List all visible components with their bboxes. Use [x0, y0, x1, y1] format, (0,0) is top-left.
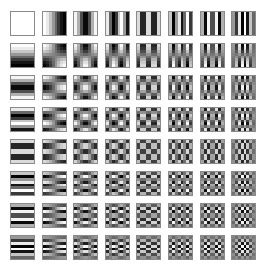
basis-tile-7-4	[136, 235, 161, 260]
basis-tile-0-7	[231, 11, 256, 36]
basis-tile-5-7	[231, 171, 256, 196]
basis-tile-0-2	[73, 11, 98, 36]
basis-tile-7-6	[200, 235, 225, 260]
basis-tile-5-6	[200, 171, 225, 196]
basis-tile-6-1	[42, 203, 67, 228]
basis-tile-3-1	[42, 107, 67, 132]
basis-tile-2-6	[200, 75, 225, 100]
basis-tile-3-4	[136, 107, 161, 132]
basis-tile-6-2	[73, 203, 98, 228]
basis-tile-5-0	[10, 171, 35, 196]
basis-tile-2-7	[231, 75, 256, 100]
basis-tile-1-7	[231, 43, 256, 68]
basis-tile-6-6	[200, 203, 225, 228]
basis-tile-1-1	[42, 43, 67, 68]
basis-tile-0-1	[42, 11, 67, 36]
basis-tile-2-1	[42, 75, 67, 100]
basis-tile-4-6	[200, 139, 225, 164]
basis-tile-4-4	[136, 139, 161, 164]
basis-tile-6-3	[105, 203, 130, 228]
basis-tile-4-1	[42, 139, 67, 164]
basis-tile-6-0	[10, 203, 35, 228]
basis-tile-1-2	[73, 43, 98, 68]
basis-tile-4-3	[105, 139, 130, 164]
basis-tile-6-5	[168, 203, 193, 228]
basis-tile-1-3	[105, 43, 130, 68]
basis-tile-6-4	[136, 203, 161, 228]
basis-tile-7-7	[231, 235, 256, 260]
basis-tile-7-3	[105, 235, 130, 260]
basis-tile-0-3	[105, 11, 130, 36]
basis-tile-1-4	[136, 43, 161, 68]
basis-tile-7-0	[10, 235, 35, 260]
basis-tile-5-1	[42, 171, 67, 196]
basis-tile-1-6	[200, 43, 225, 68]
basis-tile-3-6	[200, 107, 225, 132]
basis-tile-2-4	[136, 75, 161, 100]
basis-tile-2-5	[168, 75, 193, 100]
basis-tile-0-6	[200, 11, 225, 36]
basis-tile-5-4	[136, 171, 161, 196]
dct-basis-grid	[10, 11, 260, 263]
basis-tile-7-2	[73, 235, 98, 260]
basis-tile-3-2	[73, 107, 98, 132]
basis-tile-4-2	[73, 139, 98, 164]
basis-tile-0-4	[136, 11, 161, 36]
basis-tile-3-7	[231, 107, 256, 132]
basis-tile-5-2	[73, 171, 98, 196]
basis-tile-4-0	[10, 139, 35, 164]
basis-tile-6-7	[231, 203, 256, 228]
basis-tile-7-5	[168, 235, 193, 260]
basis-tile-2-0	[10, 75, 35, 100]
basis-tile-3-3	[105, 107, 130, 132]
basis-tile-3-0	[10, 107, 35, 132]
basis-tile-2-2	[73, 75, 98, 100]
basis-tile-0-5	[168, 11, 193, 36]
basis-tile-5-3	[105, 171, 130, 196]
basis-tile-5-5	[168, 171, 193, 196]
basis-tile-0-0	[10, 11, 35, 36]
basis-tile-4-5	[168, 139, 193, 164]
basis-tile-1-0	[10, 43, 35, 68]
basis-tile-7-1	[42, 235, 67, 260]
basis-tile-2-3	[105, 75, 130, 100]
basis-tile-4-7	[231, 139, 256, 164]
basis-tile-3-5	[168, 107, 193, 132]
basis-tile-1-5	[168, 43, 193, 68]
